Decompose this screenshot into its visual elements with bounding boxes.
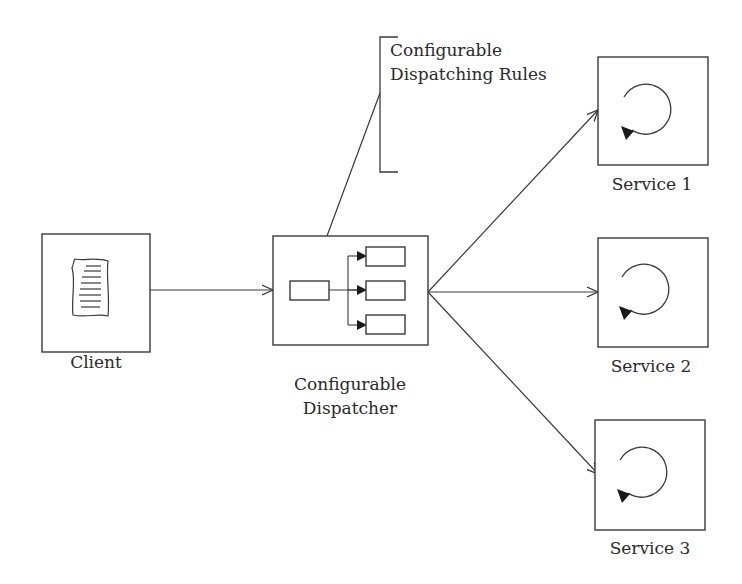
output-slot-2	[366, 281, 405, 300]
service-3-node: Service 3	[595, 420, 705, 558]
rules-label-line2: Dispatching Rules	[390, 64, 547, 84]
service-3-label: Service 3	[610, 538, 691, 558]
output-slot-1	[366, 247, 405, 266]
client-node: Client	[42, 234, 150, 372]
client-box	[42, 234, 150, 352]
dispatcher-to-service3-arrow	[428, 292, 598, 474]
output-slot-3	[366, 315, 405, 334]
client-label: Client	[70, 352, 122, 372]
service-2-box	[598, 238, 708, 347]
rules-node: Configurable Dispatching Rules	[380, 37, 547, 172]
input-slot	[290, 281, 329, 300]
service-1-label: Service 1	[612, 174, 693, 194]
dispatcher-node: Configurable Dispatcher	[273, 236, 428, 418]
dispatcher-label-line2: Dispatcher	[303, 398, 398, 418]
service-1-box	[598, 57, 708, 165]
dispatcher-diagram: Client Configurable Dispatcher Configura…	[0, 0, 742, 584]
dispatcher-to-service1-arrow	[428, 110, 598, 292]
service-2-node: Service 2	[598, 238, 708, 376]
service-1-node: Service 1	[598, 57, 708, 194]
rules-label-line1: Configurable	[390, 40, 502, 60]
service-2-label: Service 2	[611, 356, 692, 376]
service-3-box	[595, 420, 705, 530]
dispatcher-to-rules-line	[327, 93, 380, 236]
dispatcher-label-line1: Configurable	[294, 374, 406, 394]
